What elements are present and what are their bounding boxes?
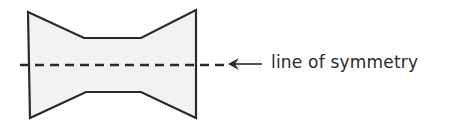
line-of-symmetry-label: line of symmetry (271, 52, 418, 72)
arrow-left-icon (228, 58, 262, 70)
symmetry-diagram: line of symmetry (0, 0, 450, 120)
